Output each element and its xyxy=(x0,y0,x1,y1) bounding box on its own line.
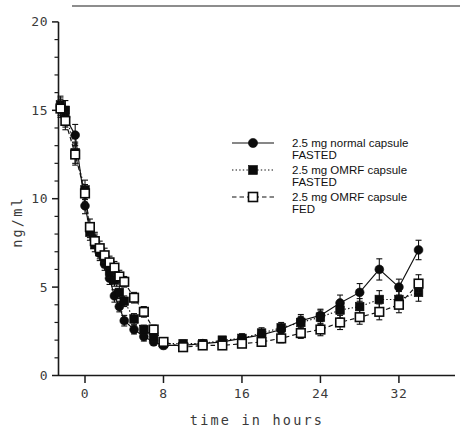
data-point xyxy=(375,295,384,304)
x-axis-ticks: 08162432 xyxy=(81,376,407,402)
series-1 xyxy=(56,98,423,350)
legend-marker xyxy=(249,193,258,202)
data-point xyxy=(257,338,266,347)
data-point xyxy=(355,288,364,297)
data-point xyxy=(120,297,129,306)
data-point xyxy=(159,338,168,347)
data-point xyxy=(395,300,404,309)
data-point xyxy=(56,104,65,113)
data-point xyxy=(297,329,306,338)
data-series-layer xyxy=(56,96,423,351)
data-point xyxy=(110,263,119,272)
data-point xyxy=(355,313,364,322)
data-point xyxy=(120,316,129,325)
legend-label-primary: 2.5 mg OMRF capsule xyxy=(292,191,407,203)
data-point xyxy=(238,339,247,348)
x-tick-label: 16 xyxy=(234,386,251,401)
data-point xyxy=(198,341,207,350)
y-axis-ticks: 05101520 xyxy=(31,14,58,383)
data-point xyxy=(130,315,139,324)
data-point xyxy=(71,150,80,159)
data-point xyxy=(257,329,266,338)
data-point xyxy=(115,288,124,297)
legend-item-2: 2.5 mg OMRF capsuleFASTED xyxy=(232,164,407,188)
x-tick-label: 24 xyxy=(312,386,329,401)
data-point xyxy=(277,323,286,332)
x-tick-label: 32 xyxy=(391,386,408,401)
data-point xyxy=(336,306,345,315)
chart-legend: 2.5 mg normal capsuleFASTED2.5 mg OMRF c… xyxy=(232,137,408,215)
error-bars xyxy=(57,96,421,347)
x-tick-label: 8 xyxy=(159,386,167,401)
data-point xyxy=(81,189,90,198)
y-tick-label: 20 xyxy=(31,14,48,29)
data-point xyxy=(316,313,325,322)
x-axis-title: time in hours xyxy=(190,412,324,428)
data-point xyxy=(218,341,227,350)
error-bars xyxy=(57,98,421,349)
data-point xyxy=(120,277,129,286)
legend-label-secondary: FED xyxy=(292,203,315,215)
data-point xyxy=(375,265,384,274)
y-tick-label: 15 xyxy=(31,103,48,118)
chart-svg: 05101520 08162432 time in hours ng/ml 2.… xyxy=(0,0,462,445)
legend-marker xyxy=(248,138,257,147)
legend-label-primary: 2.5 mg OMRF capsule xyxy=(292,164,407,176)
data-point xyxy=(297,318,306,327)
y-tick-label: 0 xyxy=(40,368,48,383)
legend-label-primary: 2.5 mg normal capsule xyxy=(292,137,408,149)
data-point xyxy=(149,325,158,334)
data-point xyxy=(414,246,423,255)
figure-canvas: 05101520 08162432 time in hours ng/ml 2.… xyxy=(0,0,462,445)
x-tick-label: 0 xyxy=(81,386,89,401)
series-2 xyxy=(56,96,423,348)
legend-label-secondary: FASTED xyxy=(292,149,337,161)
data-point xyxy=(179,343,188,352)
y-tick-label: 5 xyxy=(40,280,48,295)
data-point xyxy=(130,325,139,334)
y-tick-label: 10 xyxy=(31,191,48,206)
data-point xyxy=(414,279,423,288)
data-point xyxy=(140,325,149,334)
legend-item-1: 2.5 mg normal capsuleFASTED xyxy=(232,137,408,161)
data-point xyxy=(395,283,404,292)
data-point xyxy=(277,334,286,343)
legend-label-secondary: FASTED xyxy=(292,176,337,188)
data-point xyxy=(71,131,80,140)
data-point xyxy=(86,223,95,232)
data-point xyxy=(61,117,70,126)
data-point xyxy=(130,293,139,302)
data-point xyxy=(316,325,325,334)
legend-marker xyxy=(249,166,258,175)
legend-item-3: 2.5 mg OMRF capsuleFED xyxy=(232,191,407,215)
y-axis-title: ng/ml xyxy=(9,196,25,248)
data-point xyxy=(336,318,345,327)
data-point xyxy=(140,308,149,317)
data-point xyxy=(375,308,384,317)
